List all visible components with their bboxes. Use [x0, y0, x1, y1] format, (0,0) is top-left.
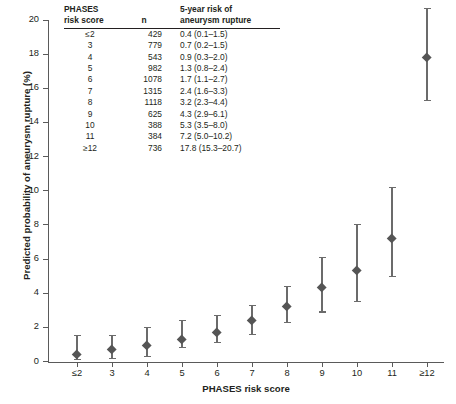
error-bar-cap-10-upper	[424, 8, 431, 9]
data-point-marker-9	[387, 233, 397, 243]
y-tick-0	[43, 361, 48, 362]
y-tick-20	[43, 20, 48, 21]
data-point-marker-2	[142, 341, 152, 351]
phases-risk-figure: PHASES risk score n 5-year risk of aneur…	[0, 0, 456, 404]
x-tick-label-4: 6	[202, 368, 232, 378]
x-tick-0	[77, 363, 78, 368]
error-bar-9	[391, 187, 392, 276]
x-axis-title: PHASES risk score	[48, 383, 444, 394]
x-tick-10	[427, 363, 428, 368]
plot-area: 02468101214161820 ≤234567891011≥12 Predi…	[0, 0, 456, 404]
data-point-marker-4	[212, 327, 222, 337]
x-tick-label-9: 11	[377, 368, 407, 378]
x-axis-line	[48, 362, 444, 363]
error-bar-cap-2-upper	[144, 327, 151, 328]
x-tick-label-1: 3	[97, 368, 127, 378]
x-tick-label-5: 7	[237, 368, 267, 378]
error-bar-cap-9-upper	[389, 187, 396, 188]
error-bar-cap-4-lower	[214, 342, 221, 343]
x-tick-label-3: 5	[167, 368, 197, 378]
x-tick-label-8: 10	[342, 368, 372, 378]
data-point-marker-6	[282, 302, 292, 312]
x-tick-6	[287, 363, 288, 368]
y-axis-line	[48, 20, 49, 362]
data-point-marker-1	[107, 344, 117, 354]
y-tick-label-2: 2	[17, 321, 39, 331]
x-tick-label-6: 8	[272, 368, 302, 378]
error-bar-cap-1-lower	[109, 358, 116, 359]
x-tick-1	[112, 363, 113, 368]
error-bar-cap-0-upper	[74, 335, 81, 336]
error-bar-cap-1-upper	[109, 335, 116, 336]
y-tick-label-20: 20	[17, 14, 39, 24]
error-bar-cap-9-lower	[389, 276, 396, 277]
y-axis-title: Predicted probability of aneurysm ruptur…	[21, 56, 32, 296]
data-point-marker-7	[317, 283, 327, 293]
y-tick-label-0: 0	[17, 356, 39, 366]
x-tick-label-2: 4	[132, 368, 162, 378]
error-bar-cap-10-lower	[424, 100, 431, 101]
data-point-marker-3	[177, 334, 187, 344]
error-bar-cap-8-lower	[354, 301, 361, 302]
x-tick-4	[217, 363, 218, 368]
y-tick-4	[43, 293, 48, 294]
error-bar-cap-6-lower	[284, 322, 291, 323]
x-tick-2	[147, 363, 148, 368]
error-bar-cap-5-upper	[249, 305, 256, 306]
error-bar-8	[356, 225, 357, 302]
y-tick-10	[43, 190, 48, 191]
x-tick-label-10: ≥12	[412, 368, 442, 378]
y-tick-18	[43, 54, 48, 55]
error-bar-cap-7-upper	[319, 257, 326, 258]
y-tick-16	[43, 88, 48, 89]
error-bar-cap-7-lower	[319, 311, 326, 312]
x-tick-8	[357, 363, 358, 368]
y-tick-14	[43, 122, 48, 123]
y-tick-8	[43, 224, 48, 225]
x-tick-5	[252, 363, 253, 368]
x-tick-label-7: 9	[307, 368, 337, 378]
error-bar-cap-3-lower	[179, 347, 186, 348]
data-point-marker-8	[352, 266, 362, 276]
x-tick-label-0: ≤2	[62, 368, 92, 378]
error-bar-cap-5-lower	[249, 334, 256, 335]
y-tick-2	[43, 327, 48, 328]
error-bar-cap-4-upper	[214, 315, 221, 316]
data-point-marker-5	[247, 315, 257, 325]
y-tick-12	[43, 156, 48, 157]
x-tick-7	[322, 363, 323, 368]
y-tick-6	[43, 259, 48, 260]
error-bar-cap-8-upper	[354, 224, 361, 225]
x-tick-9	[392, 363, 393, 368]
error-bar-cap-6-upper	[284, 286, 291, 287]
x-tick-3	[182, 363, 183, 368]
error-bar-cap-2-lower	[144, 356, 151, 357]
error-bar-cap-3-upper	[179, 320, 186, 321]
data-point-marker-10	[422, 52, 432, 62]
